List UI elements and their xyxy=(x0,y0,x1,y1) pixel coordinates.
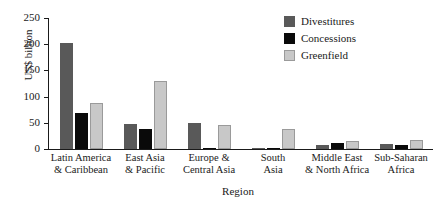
y-tick-label: 250 xyxy=(10,12,40,23)
bar-divestitures[interactable] xyxy=(124,124,137,149)
bar-divestitures[interactable] xyxy=(188,123,201,149)
bar-greenfield[interactable] xyxy=(282,129,295,149)
bar-greenfield[interactable] xyxy=(90,103,103,149)
y-tick-label: 0 xyxy=(10,143,40,154)
bar-concessions[interactable] xyxy=(203,148,216,149)
bar-divestitures[interactable] xyxy=(380,144,393,149)
x-tick-label: Middle East& North Africa xyxy=(305,152,369,175)
legend-item[interactable]: Greenfield xyxy=(284,48,434,63)
x-tick-label: East Asia& Pacific xyxy=(113,152,177,175)
x-tick-label-line: & Pacific xyxy=(113,164,177,176)
bar-greenfield[interactable] xyxy=(218,125,231,149)
x-tick-label-line: & North Africa xyxy=(305,164,369,176)
x-tick-label-line: South xyxy=(241,152,305,164)
bar-divestitures[interactable] xyxy=(252,148,265,149)
bar-greenfield[interactable] xyxy=(346,141,359,149)
legend-item[interactable]: Divestitures xyxy=(284,14,434,29)
x-tick-label-line: Middle East xyxy=(305,152,369,164)
y-tick-label: 50 xyxy=(10,117,40,128)
y-tick-label: 200 xyxy=(10,38,40,49)
legend-label: Concessions xyxy=(301,33,356,44)
bar-group xyxy=(49,18,113,149)
chart-legend: DivestituresConcessionsGreenfield xyxy=(284,14,434,65)
x-tick-label-line: Sub-Saharan xyxy=(369,152,433,164)
bar-group xyxy=(177,18,241,149)
legend-label: Greenfield xyxy=(301,50,348,61)
bar-group xyxy=(113,18,177,149)
bar-concessions[interactable] xyxy=(139,129,152,149)
x-axis-line xyxy=(48,149,433,150)
bar-greenfield[interactable] xyxy=(154,81,167,149)
bar-chart-figure: US$ billion 050100150200250 Latin Americ… xyxy=(0,0,443,208)
x-tick-label-line: Asia xyxy=(241,164,305,176)
x-tick-label-line: Central Asia xyxy=(177,164,241,176)
bar-concessions[interactable] xyxy=(267,148,280,149)
legend-swatch-divestitures xyxy=(284,16,295,27)
legend-item[interactable]: Concessions xyxy=(284,31,434,46)
x-tick-label-line: Latin America xyxy=(49,152,113,164)
x-tick-label-line: Europe & xyxy=(177,152,241,164)
legend-label: Divestitures xyxy=(301,16,354,27)
x-tick-label: Sub-SaharanAfrica xyxy=(369,152,433,175)
x-tick-label-line: & Caribbean xyxy=(49,164,113,176)
x-tick-label: Latin America& Caribbean xyxy=(49,152,113,175)
x-axis-title: Region xyxy=(0,185,443,197)
y-tick-label: 100 xyxy=(10,91,40,102)
x-tick-label: SouthAsia xyxy=(241,152,305,175)
x-tick-label-line: Africa xyxy=(369,164,433,176)
bar-concessions[interactable] xyxy=(331,143,344,149)
y-tick-label: 150 xyxy=(10,64,40,75)
bar-divestitures[interactable] xyxy=(60,43,73,149)
bar-concessions[interactable] xyxy=(395,145,408,149)
legend-swatch-greenfield xyxy=(284,50,295,61)
legend-swatch-concessions xyxy=(284,33,295,44)
bar-concessions[interactable] xyxy=(75,113,88,149)
bar-greenfield[interactable] xyxy=(410,140,423,149)
x-tick-label-line: East Asia xyxy=(113,152,177,164)
x-tick-label: Europe &Central Asia xyxy=(177,152,241,175)
bar-divestitures[interactable] xyxy=(316,145,329,149)
y-axis-tick-labels: 050100150200250 xyxy=(10,0,40,208)
